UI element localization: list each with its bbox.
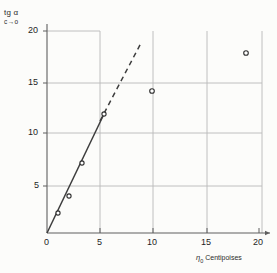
axes bbox=[47, 24, 270, 233]
x-tick-label-10: 10 bbox=[147, 238, 157, 247]
x-tick-label-15: 15 bbox=[201, 238, 211, 247]
data-point bbox=[67, 194, 71, 198]
x-tick-label-20: 20 bbox=[253, 238, 263, 247]
x-tick-label-5: 5 bbox=[97, 238, 102, 247]
data-points-deviating bbox=[150, 51, 249, 94]
x-axis-label-unit: Centipoises bbox=[205, 254, 242, 261]
x-axis-arrow bbox=[265, 231, 270, 236]
y-axis-label: tg α c→o bbox=[4, 9, 19, 26]
y-tick-label-10: 10 bbox=[28, 128, 38, 137]
chart-figure: tg α c→o 20 15 10 5 0 5 10 15 20 η0Centi… bbox=[0, 0, 277, 273]
y-axis-label-line1: tg α bbox=[4, 9, 19, 17]
plot-canvas bbox=[0, 0, 277, 273]
data-point bbox=[56, 211, 60, 215]
tick-marks bbox=[43, 31, 259, 233]
x-tick-label-0: 0 bbox=[44, 238, 49, 247]
y-tick-label-5: 5 bbox=[34, 181, 39, 190]
gridlines bbox=[47, 31, 262, 233]
y-tick-label-15: 15 bbox=[28, 78, 38, 87]
y-tick-label-20: 20 bbox=[28, 26, 38, 35]
data-point bbox=[80, 161, 84, 165]
x-axis-label: η0Centipoises bbox=[196, 254, 242, 264]
fitted-line-solid bbox=[47, 114, 104, 233]
extrapolation-line-dashed bbox=[100, 43, 141, 121]
data-point bbox=[102, 112, 106, 116]
x-axis-label-subscript: 0 bbox=[200, 258, 203, 264]
data-point bbox=[150, 89, 155, 94]
y-axis-label-line2: c→o bbox=[4, 19, 19, 26]
data-point bbox=[244, 51, 249, 56]
